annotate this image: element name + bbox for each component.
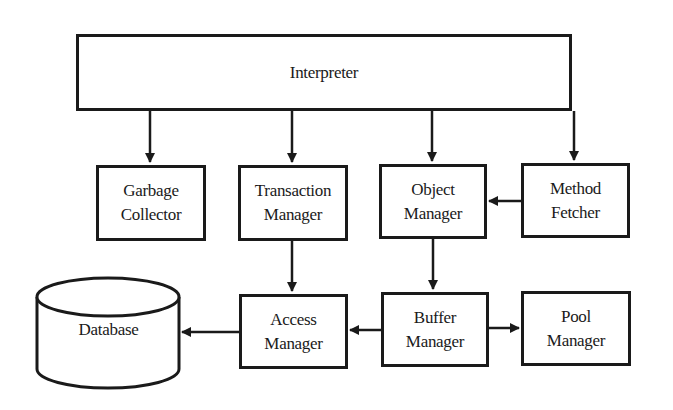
node-label-line-2: Manager — [404, 202, 462, 226]
node-label-line-1: Buffer — [414, 306, 456, 330]
node-access-manager: Access Manager — [239, 294, 348, 369]
node-label-line-2: Fetcher — [551, 201, 600, 225]
node-pool-manager: Pool Manager — [521, 291, 631, 366]
node-label-line-2: Manager — [264, 203, 322, 227]
architecture-diagram: Interpreter Garbage Collector Transactio… — [0, 0, 673, 410]
node-method-fetcher: Method Fetcher — [521, 163, 630, 238]
node-interpreter: Interpreter — [76, 34, 572, 111]
node-label-line-2: Manager — [547, 329, 605, 353]
node-label-line-1: Access — [270, 308, 316, 332]
node-label-line-1: Object — [411, 178, 455, 202]
node-label: Interpreter — [290, 61, 358, 85]
node-transaction-manager: Transaction Manager — [238, 165, 348, 241]
node-label-line-1: Pool — [561, 305, 591, 329]
node-label-line-1: Garbage — [123, 179, 178, 203]
node-garbage-collector: Garbage Collector — [96, 165, 206, 241]
node-label-line-2: Manager — [406, 330, 464, 354]
node-label-line-1: Method — [550, 177, 601, 201]
node-buffer-manager: Buffer Manager — [381, 292, 489, 367]
node-label-line-2: Manager — [264, 332, 322, 356]
node-label-line-2: Collector — [121, 203, 182, 227]
node-object-manager: Object Manager — [379, 164, 487, 239]
node-database: Database — [37, 318, 180, 342]
node-label: Database — [79, 320, 139, 339]
node-label-line-1: Transaction — [255, 179, 331, 203]
